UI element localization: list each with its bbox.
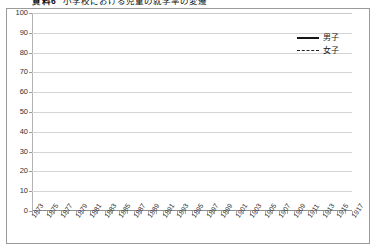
y-axis-tick	[29, 191, 32, 192]
legend-line-swatch	[297, 37, 319, 39]
gridline	[32, 191, 352, 192]
gridline	[32, 152, 352, 153]
y-axis-tick-label: 30	[2, 148, 28, 156]
y-axis-tick-label: 40	[2, 128, 28, 136]
figure-caption: 資料6小学校における児童の就学率の変遷	[32, 0, 362, 7]
gridline	[32, 92, 352, 93]
figure-caption-number: 資料6	[32, 0, 56, 6]
y-axis-tick	[29, 13, 32, 14]
y-axis-tick-label: 70	[2, 68, 28, 76]
y-axis-tick	[29, 33, 32, 34]
gridline	[32, 13, 352, 14]
legend-item: 女子	[297, 44, 359, 57]
y-axis-tick-label: 80	[2, 49, 28, 57]
y-axis-tick-label: 0	[2, 207, 28, 215]
gridline	[32, 171, 352, 172]
y-axis-tick-label: 90	[2, 29, 28, 37]
gridline	[32, 72, 352, 73]
y-axis-tick	[29, 92, 32, 93]
y-axis-tick-label: 100	[2, 9, 28, 17]
y-axis-tick-label: 50	[2, 108, 28, 116]
legend-item-label: 男子	[323, 32, 339, 43]
gridline	[32, 132, 352, 133]
y-axis-tick	[29, 171, 32, 172]
y-axis-tick	[29, 152, 32, 153]
y-axis-tick-label: 10	[2, 187, 28, 195]
figure-page: 資料6小学校における児童の就学率の変遷 10090807060504030201…	[0, 0, 379, 249]
y-axis-tick	[29, 53, 32, 54]
figure-caption-text: 小学校における児童の就学率の変遷	[63, 0, 207, 6]
legend-item-label: 女子	[323, 45, 339, 56]
y-axis-tick-label: 60	[2, 88, 28, 96]
chart-legend: 男子女子	[297, 31, 359, 59]
gridline	[32, 112, 352, 113]
legend-item: 男子	[297, 31, 359, 44]
y-axis-tick	[29, 132, 32, 133]
legend-line-swatch	[297, 50, 319, 51]
y-axis-tick	[29, 112, 32, 113]
y-axis-tick-label: 20	[2, 167, 28, 175]
y-axis-tick	[29, 72, 32, 73]
